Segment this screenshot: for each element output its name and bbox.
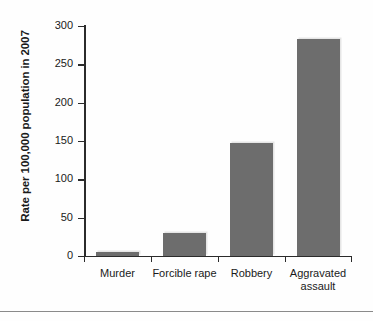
x-category-label-forcible-rape: Forcible rape <box>147 267 222 280</box>
y-tick-label-50: 50 <box>33 211 73 223</box>
bar-robbery[interactable] <box>230 143 273 256</box>
bottom-divider <box>0 311 373 312</box>
x-tick-0 <box>84 256 85 262</box>
x-category-label-line2: assault <box>301 280 336 292</box>
x-tick-4 <box>351 256 352 262</box>
y-tick-label-300: 300 <box>33 19 73 31</box>
x-tick-3 <box>285 256 286 262</box>
y-tick-label-100: 100 <box>33 172 73 184</box>
bar-murder[interactable] <box>96 252 139 256</box>
y-tick-label-150: 150 <box>33 134 73 146</box>
plot-area <box>84 26 352 256</box>
bar-forcible-rape[interactable] <box>163 233 206 256</box>
y-tick-label-0: 0 <box>33 249 73 261</box>
x-tick-1 <box>151 256 152 262</box>
bar-aggravated-assault[interactable] <box>297 39 340 256</box>
x-category-label-aggravated-assault: Aggravated assault <box>283 267 353 293</box>
x-category-label-murder: Murder <box>84 267 151 280</box>
x-category-label-robbery: Robbery <box>218 267 285 280</box>
bar-chart-figure: Rate per 100,000 population in 2007 0 50… <box>0 0 373 321</box>
x-tick-2 <box>218 256 219 262</box>
y-axis-title: Rate per 100,000 population in 2007 <box>19 6 31 246</box>
y-tick-label-200: 200 <box>33 96 73 108</box>
x-category-label-line1: Aggravated <box>290 267 346 279</box>
y-tick-label-250: 250 <box>33 57 73 69</box>
